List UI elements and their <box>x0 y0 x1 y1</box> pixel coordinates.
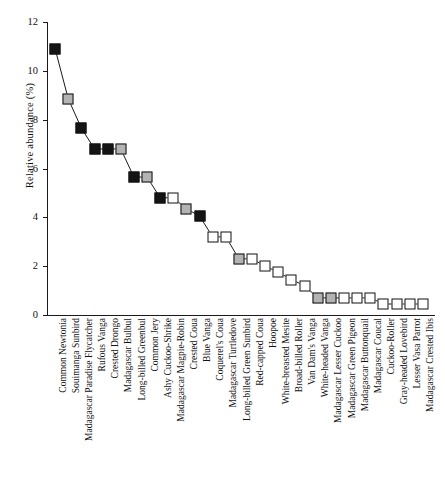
data-point-marker <box>76 123 87 134</box>
x-axis-label-text: Souimanga Sunbird <box>72 318 82 393</box>
data-point-marker <box>378 299 389 310</box>
x-axis-label: Madagascar Paradise Flycatcher <box>85 318 95 441</box>
x-axis-label: Madagascar Turtledove <box>229 318 239 407</box>
x-axis-label-text: Common Newtonia <box>59 318 69 393</box>
x-axis-label: Hoopoe <box>269 318 279 348</box>
x-axis-label: Rufous Vanga <box>98 318 108 371</box>
x-axis-label-text: Madagascar Magpie-Robin <box>177 318 187 422</box>
x-axis-label-text: Rufous Vanga <box>98 318 108 371</box>
x-axis-label-text: Cuckoo-Roller <box>387 318 397 374</box>
x-axis-label-text: Blue Vanga <box>203 318 213 362</box>
data-point-marker <box>128 172 139 183</box>
x-axis-label: Madagascar Bulbul <box>124 318 134 392</box>
x-axis-label: Cuckoo-Roller <box>387 318 397 374</box>
x-axis-label: Coquerel's Coua <box>216 318 226 381</box>
x-axis-label: Common Newtonia <box>59 318 69 393</box>
data-point-marker <box>63 93 74 104</box>
x-axis-label: Madagascar Lesser Cuckoo <box>334 318 344 423</box>
data-point-marker <box>155 192 166 203</box>
x-axis-label-text: Hoopoe <box>269 318 279 348</box>
data-point-marker <box>365 292 376 303</box>
x-axis-label: Long-billed Green Sunbird <box>243 318 253 421</box>
x-axis-label: Common Jery <box>151 318 161 372</box>
x-axis-label: Van Dam's Vanga <box>308 318 318 385</box>
data-point-marker <box>286 274 297 285</box>
data-point-marker <box>168 192 179 203</box>
x-axis-label-text: Madagascar Turtledove <box>229 318 239 407</box>
y-tick: 0 <box>43 315 48 316</box>
data-point-marker <box>339 292 350 303</box>
x-axis-label-text: Madagascar Crested Ibis <box>426 318 436 412</box>
x-axis-label-text: Ashy Cuckoo-Shrike <box>164 318 174 398</box>
data-point-marker <box>299 280 310 291</box>
data-point-marker <box>220 231 231 242</box>
x-axis-label-text: Red-capped Coua <box>256 318 266 386</box>
data-point-marker <box>50 43 61 54</box>
x-axis-label-text: Madagascar Paradise Flycatcher <box>85 318 95 441</box>
data-point-marker <box>260 261 271 272</box>
x-axis-label-text: Madagascar Green Pigeon <box>348 318 358 418</box>
data-point-marker <box>115 143 126 154</box>
x-axis-label: Long-billed Greenbul <box>138 318 148 401</box>
x-axis-label: Madagascar Coucal <box>374 318 384 393</box>
data-point-marker <box>404 299 415 310</box>
x-axis-label: White-breasted Mesite <box>282 318 292 404</box>
y-tick-label: 6 <box>33 163 38 174</box>
figure: Relative abundance (%) 024681012 Common … <box>0 0 445 482</box>
x-axis-label-text: Coquerel's Coua <box>216 318 226 381</box>
data-point-marker <box>233 253 244 264</box>
x-axis-label: Ashy Cuckoo-Shrike <box>164 318 174 398</box>
x-axis-label: Crested Coua <box>190 318 200 369</box>
x-axis-label: Madagascar Magpie-Robin <box>177 318 187 422</box>
x-axis-label: Crested Drongo <box>111 318 121 378</box>
data-point-marker <box>325 292 336 303</box>
x-axis-label: Red-capped Coua <box>256 318 266 386</box>
x-axis-label: Gray-headed Lovebird <box>400 318 410 404</box>
x-axis-label: Souimanga Sunbird <box>72 318 82 393</box>
data-point-marker <box>247 253 258 264</box>
x-axis-label-text: Madagascar Lesser Cuckoo <box>334 318 344 423</box>
data-point-marker <box>181 203 192 214</box>
data-point-marker <box>417 299 428 310</box>
x-axis-label-text: Long-billed Green Sunbird <box>243 318 253 421</box>
x-axis-label-text: White-breasted Mesite <box>282 318 292 404</box>
data-point-marker <box>273 267 284 278</box>
x-axis-line <box>47 315 435 316</box>
x-axis-label: Broad-billed Roller <box>295 318 305 392</box>
x-axis-label-text: Long-billed Greenbul <box>138 318 148 401</box>
data-point-marker <box>89 143 100 154</box>
y-tick-label: 0 <box>33 310 38 321</box>
x-axis-label-text: Broad-billed Roller <box>295 318 305 392</box>
x-axis-label-text: Van Dam's Vanga <box>308 318 318 385</box>
series-connector-line <box>47 22 435 315</box>
x-axis-label-text: Common Jery <box>151 318 161 372</box>
y-tick-label: 12 <box>28 17 39 28</box>
data-point-marker <box>142 172 153 183</box>
x-axis-label-text: Crested Drongo <box>111 318 121 378</box>
y-tick-label: 4 <box>33 212 38 223</box>
x-axis-category-labels: Common NewtoniaSouimanga SunbirdMadagasc… <box>47 318 435 482</box>
x-axis-label-text: White-headed Vanga <box>321 318 331 397</box>
y-tick-label: 2 <box>33 261 38 272</box>
x-axis-label: Madagascar Buttonquail <box>361 318 371 411</box>
x-axis-label: Lesser Vasa Parrot <box>413 318 423 389</box>
x-axis-label: Madagascar Green Pigeon <box>348 318 358 418</box>
x-axis-label-text: Madagascar Buttonquail <box>361 318 371 411</box>
data-point-marker <box>102 143 113 154</box>
data-point-marker <box>312 292 323 303</box>
y-tick-label: 8 <box>33 114 38 125</box>
x-axis-label: Madagascar Crested Ibis <box>426 318 436 412</box>
x-axis-label-text: Madagascar Bulbul <box>124 318 134 392</box>
x-axis-label-text: Madagascar Coucal <box>374 318 384 393</box>
x-axis-label-text: Lesser Vasa Parrot <box>413 318 423 389</box>
x-axis-label: White-headed Vanga <box>321 318 331 397</box>
x-axis-label: Blue Vanga <box>203 318 213 362</box>
data-point-marker <box>352 292 363 303</box>
y-tick-label: 10 <box>28 66 39 77</box>
data-point-marker <box>194 211 205 222</box>
x-axis-label-text: Crested Coua <box>190 318 200 369</box>
data-point-marker <box>207 231 218 242</box>
data-point-marker <box>391 299 402 310</box>
x-axis-label-text: Gray-headed Lovebird <box>400 318 410 404</box>
plot-area: 024681012 <box>47 22 435 315</box>
